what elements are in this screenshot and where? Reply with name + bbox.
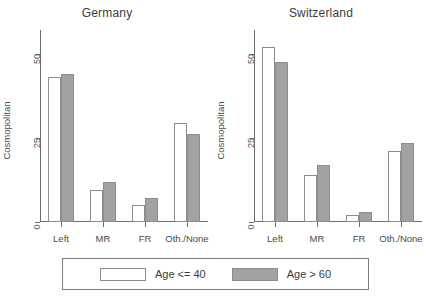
x-tick-mark: [359, 222, 360, 227]
panel-title-switzerland: Switzerland: [214, 6, 428, 20]
y-tick-label: 25: [246, 138, 256, 148]
bar: [48, 77, 61, 222]
x-tick-mark: [145, 222, 146, 227]
bar: [401, 143, 414, 222]
chart-panels: Germany Cosmopolitan 02550 LeftMRFROth./…: [0, 0, 428, 250]
bar: [275, 62, 288, 222]
legend-label: Age > 60: [287, 268, 331, 280]
bar: [317, 165, 330, 222]
bar: [304, 175, 317, 222]
y-tick-label: 50: [246, 54, 256, 64]
bar: [262, 47, 275, 222]
panel-title-germany: Germany: [0, 6, 214, 20]
legend-swatch-light-icon: [100, 268, 146, 281]
y-tick-label: 0: [246, 224, 256, 229]
panel-switzerland: Switzerland Cosmopolitan 02550 LeftMRFRO…: [214, 0, 428, 250]
legend-label: Age <= 40: [155, 268, 206, 280]
y-axis-title-switzerland: Cosmopolitan: [215, 101, 226, 159]
x-tick-label: MR: [310, 233, 325, 244]
chart-figure: Germany Cosmopolitan 02550 LeftMRFROth./…: [0, 0, 428, 296]
x-tick-mark: [317, 222, 318, 227]
x-tick-mark: [103, 222, 104, 227]
bar: [90, 190, 103, 222]
x-tick-mark: [401, 222, 402, 227]
bar: [174, 123, 187, 222]
bar: [346, 215, 359, 222]
y-tick-label: 25: [32, 138, 42, 148]
x-tick-label: Left: [53, 233, 69, 244]
bar: [145, 198, 158, 222]
legend-entry: Age <= 40: [100, 268, 206, 281]
x-tick-label: Oth./None: [165, 233, 208, 244]
x-tick-mark: [187, 222, 188, 227]
bar: [132, 205, 145, 222]
legend-entry: Age > 60: [232, 268, 331, 281]
x-tick-label: MR: [96, 233, 111, 244]
y-tick-mark: [249, 222, 254, 223]
legend-swatch-dark-icon: [232, 268, 278, 281]
plot-area-germany: 02550 LeftMRFROth./None: [40, 30, 208, 222]
x-tick-label: Left: [267, 233, 283, 244]
plot-area-switzerland: 02550 LeftMRFROth./None: [254, 30, 422, 222]
bar: [187, 134, 200, 222]
x-tick-mark: [275, 222, 276, 227]
bar: [61, 74, 74, 222]
panel-germany: Germany Cosmopolitan 02550 LeftMRFROth./…: [0, 0, 214, 250]
y-tick-label: 50: [32, 54, 42, 64]
x-tick-label: FR: [139, 233, 152, 244]
x-tick-label: FR: [353, 233, 366, 244]
bar: [103, 182, 116, 222]
y-axis-title-germany: Cosmopolitan: [1, 101, 12, 159]
y-tick-label: 0: [32, 224, 42, 229]
x-tick-label: Oth./None: [379, 233, 422, 244]
x-tick-mark: [61, 222, 62, 227]
y-tick-mark: [35, 222, 40, 223]
chart-legend: Age <= 40 Age > 60: [62, 258, 369, 290]
bar: [359, 212, 372, 222]
bar: [388, 151, 401, 222]
